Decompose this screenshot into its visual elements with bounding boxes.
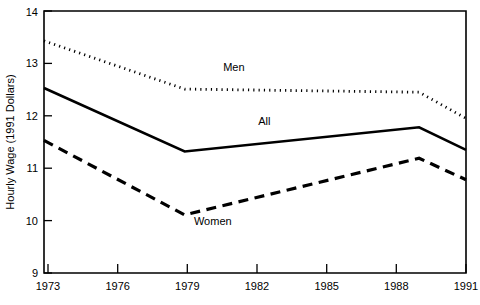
y-axis-title: Hourly Wage (1991 Dollars): [4, 74, 16, 209]
x-tick-label-1985: 1985: [314, 280, 338, 292]
series-label-men: Men: [223, 61, 244, 73]
x-tick-label-1979: 1979: [175, 280, 199, 292]
series-label-women: Women: [194, 215, 232, 227]
x-tick-label-1982: 1982: [245, 280, 269, 292]
y-tick-label-14: 14: [26, 6, 38, 18]
x-tick-label-1988: 1988: [384, 280, 408, 292]
y-tick-label-11: 11: [27, 162, 38, 174]
y-tick-label-9: 9: [32, 267, 38, 279]
x-tick-label-1976: 1976: [105, 280, 129, 292]
series-label-all: All: [258, 115, 270, 127]
y-tick-label-12: 12: [26, 110, 38, 122]
chart-background: [0, 0, 480, 305]
x-tick-label-1991: 1991: [454, 280, 478, 292]
chart-page: 9 10 11 12 13 14 1973 1976 1979 1982 198…: [0, 0, 480, 305]
x-tick-label-1973: 1973: [36, 280, 60, 292]
wage-line-chart: 9 10 11 12 13 14 1973 1976 1979 1982 198…: [0, 0, 480, 305]
y-tick-label-13: 13: [26, 57, 38, 69]
y-tick-label-10: 10: [26, 215, 38, 227]
